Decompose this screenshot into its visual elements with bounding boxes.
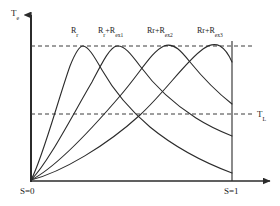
curve-label-rr-rex3-ext-sub: ex3 [215,32,223,38]
torque-slip-characteristic-figure: Te TL S=0 S=1 Rr Rr+Rex1 Rr+Rex2 Rr+Rex3 [0,0,280,206]
slip-zero-label: S=0 [20,187,35,196]
y-axis-label-base: T [11,8,17,18]
plot-canvas [0,0,280,206]
curve-label-rr-rex2-ext-sub: ex2 [165,32,173,38]
load-torque-label: TL [257,110,266,121]
torque-curve-rr [31,46,232,180]
curve-label-rr: Rr [71,27,78,37]
y-axis-label: Te [11,9,19,20]
curve-label-rr-rex1: Rr+Rex1 [98,27,123,37]
curve-label-rr-rex2: Rr+Rex2 [147,27,173,37]
slip-one-label: S=1 [224,187,239,196]
curve-label-rr-rex3-base: Rr [197,26,205,35]
load-torque-label-subscript: L [263,116,267,122]
curve-label-rr-rex3: Rr+Rex3 [197,27,223,37]
load-torque-label-base: T [257,109,263,119]
y-axis-label-subscript: e [17,15,20,21]
curve-label-rr-rex2-base: Rr [147,26,155,35]
curve-label-rr-rex1-ext-sub: ex1 [115,32,123,38]
